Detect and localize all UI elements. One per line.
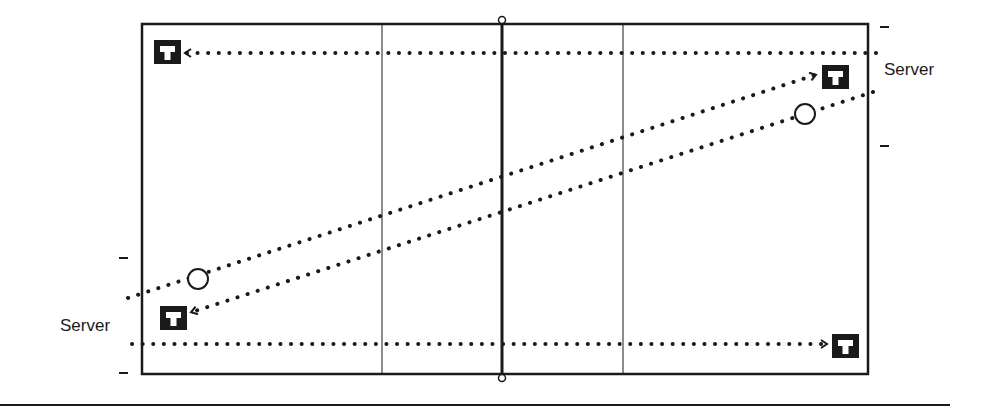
tick-marks	[119, 27, 889, 373]
net-post-top	[499, 17, 506, 24]
target-bottom-left-icon	[160, 306, 187, 330]
target-top-right-icon	[822, 65, 849, 89]
ball-left	[188, 269, 208, 289]
server-label-left: Server	[60, 316, 110, 336]
target-bottom-right-icon	[832, 334, 859, 358]
ball-right	[795, 104, 815, 124]
path-right-serve-cross	[192, 92, 873, 312]
court-outline	[142, 24, 868, 374]
court-diagram	[0, 0, 1001, 407]
net-post-bottom	[499, 375, 506, 382]
server-label-right: Server	[884, 60, 934, 80]
target-top-left-icon	[154, 40, 181, 64]
path-left-serve-cross	[128, 75, 815, 298]
court	[142, 17, 868, 382]
